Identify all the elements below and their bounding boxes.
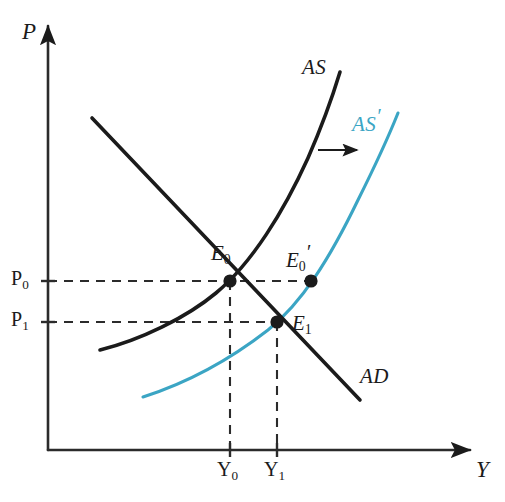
curve-as <box>100 72 340 350</box>
point-label-e1-base: E <box>292 311 305 335</box>
point-label-e0-prime: E0′ <box>286 243 310 274</box>
curve-label-as-prime: AS′ <box>352 107 381 135</box>
tick-marks-group <box>41 281 277 457</box>
tick-label-y1: Y1 <box>264 459 285 482</box>
curve-as-prime <box>143 113 398 397</box>
tick-label-p1: P1 <box>11 309 29 332</box>
point-marker-e1 <box>270 315 283 328</box>
tick-label-p0-base: P <box>11 267 22 289</box>
tick-label-y1-base: Y <box>264 458 278 480</box>
point-label-e1: E1 <box>292 313 312 337</box>
point-label-e0-sub: 0 <box>224 252 231 267</box>
point-marker-e0 <box>223 274 236 287</box>
curve-label-as: AS <box>302 57 326 78</box>
output-axis-label: Y <box>476 458 489 481</box>
tick-label-y0-base: Y <box>217 458 231 480</box>
point-marker-e0-prime <box>304 274 317 287</box>
tick-label-y1-sub: 1 <box>278 468 285 483</box>
tick-label-p0: P0 <box>11 268 29 291</box>
curve-label-ad: AD <box>360 366 389 387</box>
tick-label-p1-base: P <box>11 308 22 330</box>
as-ad-diagram: P Y AS AS′ AD E0 E0′ E1 P0 P1 Y0 Y1 <box>0 0 505 502</box>
axis-group <box>48 26 470 450</box>
price-level-axis-label: P <box>22 20 36 43</box>
tick-label-y0: Y0 <box>217 459 238 482</box>
point-label-e0-base: E <box>211 241 224 265</box>
tick-label-p0-sub: 0 <box>22 277 29 292</box>
tick-label-p1-sub: 1 <box>22 318 29 333</box>
curve-label-as-prime-mark: ′ <box>376 105 381 127</box>
tick-label-y0-sub: 0 <box>231 468 238 483</box>
point-label-e0-prime-sub: 0 <box>299 259 306 274</box>
point-label-e0-prime-base: E <box>286 248 299 272</box>
point-label-e1-sub: 1 <box>305 322 312 337</box>
point-label-e0-prime-mark: ′ <box>306 241 310 263</box>
point-label-e0: E0 <box>211 243 231 267</box>
curve-label-as-prime-base: AS <box>352 112 376 136</box>
diagram-canvas <box>0 0 505 502</box>
